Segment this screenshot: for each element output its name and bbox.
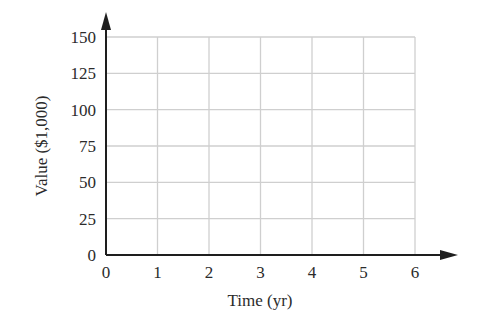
chart: 0255075100125150 0123456 Time (yr) Value…: [0, 0, 482, 331]
y-tick-label: 150: [71, 28, 97, 47]
y-axis-arrow-icon: [101, 12, 111, 30]
y-axis-label: Value ($1,000): [32, 95, 51, 196]
x-tick-label: 3: [256, 263, 265, 282]
y-tick-label: 0: [88, 246, 97, 265]
y-tick-label: 25: [79, 210, 96, 229]
x-tick-label: 5: [359, 263, 368, 282]
x-axis-label: Time (yr): [227, 291, 292, 310]
x-axis-arrow-icon: [440, 250, 458, 260]
x-tick-label: 6: [411, 263, 420, 282]
x-tick-labels: 0123456: [102, 263, 420, 282]
x-tick-label: 2: [205, 263, 214, 282]
x-tick-label: 4: [308, 263, 317, 282]
grid-lines: [106, 37, 415, 255]
y-tick-label: 50: [79, 173, 96, 192]
x-tick-label: 1: [153, 263, 162, 282]
y-tick-label: 125: [71, 64, 97, 83]
y-tick-labels: 0255075100125150: [71, 28, 97, 265]
axes: [101, 12, 458, 260]
y-tick-label: 100: [71, 101, 97, 120]
y-tick-label: 75: [79, 137, 96, 156]
x-tick-label: 0: [102, 263, 111, 282]
